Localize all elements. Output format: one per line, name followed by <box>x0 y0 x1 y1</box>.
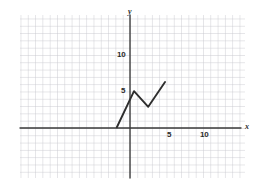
x-axis-tick-label-10: 10 <box>200 131 209 139</box>
x-axis-tick-label-5: 5 <box>167 131 171 139</box>
y-axis-label: y <box>128 8 132 16</box>
graph-figure: 10 5 5 10 y x <box>0 0 266 188</box>
coordinate-plane <box>0 0 266 188</box>
y-axis-tick-label-5: 5 <box>121 87 125 95</box>
y-axis-tick-label-10: 10 <box>117 51 126 59</box>
x-axis-label: x <box>245 123 249 131</box>
